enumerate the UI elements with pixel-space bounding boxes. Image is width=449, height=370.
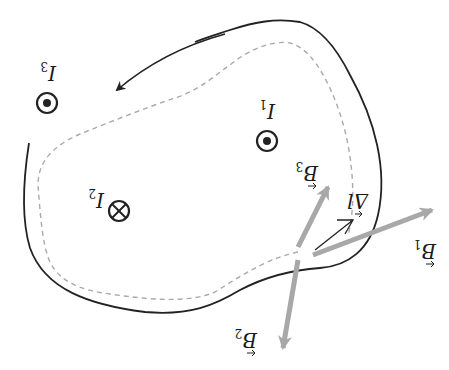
label-i1: I1 [259,97,276,123]
current-i3 [37,93,57,113]
label-b1: B1 [414,237,437,263]
label-b3: B3 [296,159,319,185]
label-i3: I3 [40,59,57,85]
boundary-curve [24,20,382,312]
current-i1 [257,131,277,151]
direction-arrow [117,34,225,90]
label-i2: I2 [88,186,105,212]
label-dl: Δl [347,189,369,213]
ampere-loop-diagram: I3 I1 I2 B1 B2 B3 Δl [0,0,449,370]
vector-b3 [298,187,328,247]
label-b2: B2 [235,326,258,352]
current-i2 [109,201,129,221]
